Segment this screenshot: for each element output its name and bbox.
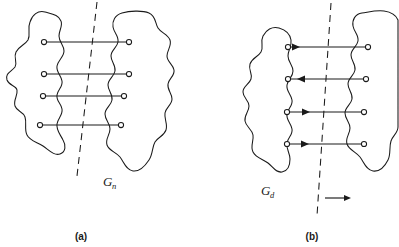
panel-a-node-right-4 <box>118 122 123 127</box>
panel-b-node-left-3 <box>284 109 289 114</box>
panel-b-node-left-4 <box>284 141 289 146</box>
panel-b-node-right-4 <box>361 141 366 146</box>
panel-b-node-left-1 <box>285 44 290 49</box>
panel-a-node-right-1 <box>126 39 131 44</box>
panel-b-edge-1-arrowhead-right <box>292 44 300 51</box>
panel-a-cut-line <box>77 2 97 176</box>
panel-a-node-left-4 <box>37 122 42 127</box>
panel-b-cut-direction-arrowhead <box>344 195 351 201</box>
panel-b-node-left-2 <box>285 76 290 81</box>
panel-a-left-region-outline <box>7 12 65 155</box>
panel-b-edge-4-arrowhead-right <box>301 141 309 148</box>
panel-a-right-region-outline <box>105 11 174 171</box>
panel-a-node-left-3 <box>40 93 45 98</box>
panel-b-node-right-3 <box>361 109 366 114</box>
panel-b-node-right-2 <box>363 76 368 81</box>
panel-a-graph-label-subscript: n <box>112 181 116 191</box>
panel-b-caption: (b) <box>306 231 319 242</box>
panel-b-cut-line <box>317 3 331 216</box>
graph-partition-figure: G n (a) <box>0 0 399 247</box>
panel-b-edge-2-arrowhead-left <box>297 76 305 83</box>
panel-a-node-left-1 <box>41 39 46 44</box>
panel-a: G n (a) <box>7 2 175 242</box>
panel-a-node-left-2 <box>41 71 46 76</box>
panel-b-node-right-1 <box>365 44 370 49</box>
panel-b: G d (b) <box>243 3 398 242</box>
panel-a-node-right-3 <box>121 93 126 98</box>
panel-b-right-region-outline <box>345 11 398 171</box>
panel-b-edge-3-arrowhead-right <box>302 109 310 116</box>
panel-b-left-region-outline <box>243 27 293 172</box>
panel-b-graph-label-subscript: d <box>270 190 275 200</box>
panel-a-node-right-2 <box>126 71 131 76</box>
panel-a-caption: (a) <box>75 231 87 242</box>
figure-container: G n (a) <box>0 0 399 247</box>
